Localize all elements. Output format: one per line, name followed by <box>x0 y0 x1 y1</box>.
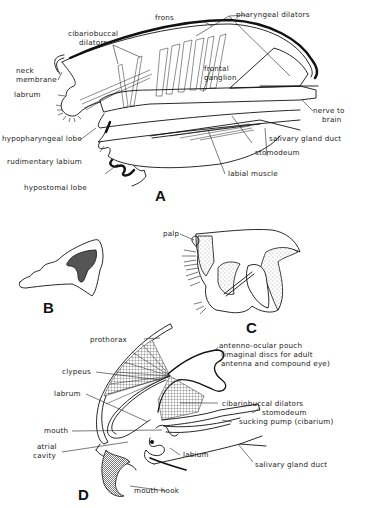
label-palp: palp <box>163 229 180 238</box>
label-frons: frons <box>155 13 174 22</box>
label-atrial-cavity-2: cavity <box>33 451 56 460</box>
label-frontal-ganglion-1: frontal <box>204 64 229 73</box>
pharyngeal-dilator-fan <box>230 48 308 88</box>
labium-outline <box>98 136 280 168</box>
label-antenno-ocular-pouch-1: antenno-ocular pouch <box>219 341 302 350</box>
panel-letter-d: D <box>78 486 89 503</box>
label-sucking-pump: sucking pump (cibarium) <box>239 417 333 426</box>
label-mouth: mouth <box>44 426 68 435</box>
panel-b: B <box>19 240 103 316</box>
labrum-outline <box>61 62 100 116</box>
bristles <box>56 105 81 122</box>
label-frontal-ganglion-2: ganglion <box>204 73 237 82</box>
label-pharyngeal-dilators: pharyngeal dilators <box>236 10 310 19</box>
panel-letter-b: B <box>43 299 54 316</box>
panel-d: prothorax antenno-ocular pouch (imaginal… <box>33 324 333 503</box>
panel-c: palp C <box>163 229 300 336</box>
label-rudimentary-labium: rudimentary labium <box>7 157 82 166</box>
panel-letter-a: A <box>155 187 166 204</box>
label-neck-membrane-1: neck <box>16 66 35 75</box>
label-antenno-ocular-pouch-3: antenna and compound eye) <box>221 359 330 368</box>
label-labial-muscle: labial muscle <box>228 169 278 178</box>
label-cibariobuccal-dilators-a-1: cibariobuccal <box>68 29 118 38</box>
neck-membrane <box>55 55 64 74</box>
salivary-duct-d <box>154 436 266 464</box>
labium-dot <box>150 440 154 444</box>
label-prothorax: prothorax <box>90 335 127 344</box>
leader-palp <box>180 234 194 240</box>
label-neck-membrane-2: membrane <box>16 75 57 84</box>
label-cibariobuccal-dilators-a-2: dilators <box>79 38 108 47</box>
mandible-b-sclerite <box>67 250 97 282</box>
label-atrial-cavity-1: atrial <box>37 442 57 451</box>
label-hypostomal-lobe: hypostomal lobe <box>24 183 87 192</box>
pharynx-tube <box>100 86 316 112</box>
panel-letter-c: C <box>246 319 257 336</box>
label-hypopharyngeal-lobe: hypopharyngeal lobe <box>2 134 82 143</box>
label-stomodeum-d: stomodeum <box>262 408 307 417</box>
cibariobuccal-dilator-muscles <box>80 56 152 110</box>
label-salivary-gland-duct-a: salivary gland duct <box>269 134 341 143</box>
anatomy-figure: frons pharyngeal dilators cibariobuccal … <box>0 0 365 508</box>
label-antenno-ocular-pouch-2: (imaginal discs for adult <box>221 350 313 359</box>
label-salivary-gland-duct-d: salivary gland duct <box>255 460 327 469</box>
label-nerve-to-brain-1: nerve to <box>313 106 345 115</box>
panel-a: frons pharyngeal dilators cibariobuccal … <box>2 10 345 204</box>
label-labrum-a: labrum <box>14 90 41 99</box>
label-labrum-d: labrum <box>54 389 81 398</box>
mouth-hook <box>102 450 130 497</box>
label-stomodeum-a: stomodeum <box>255 148 300 157</box>
label-labium-d: labium <box>183 450 209 459</box>
label-nerve-to-brain-2: brain <box>322 115 341 124</box>
label-clypeus: clypeus <box>62 367 91 376</box>
label-mouth-hook: mouth hook <box>134 486 180 495</box>
label-cibariobuccal-dilators-d: cibariobuccal dilators <box>222 399 303 408</box>
